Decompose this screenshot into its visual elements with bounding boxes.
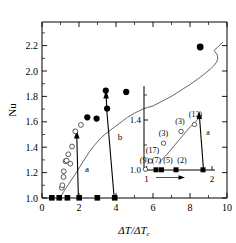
inset-open-circle-9: [143, 167, 147, 171]
filled-circle-marker: [94, 116, 100, 122]
branch-a-line: [77, 136, 79, 198]
inset-label-9: (9): [140, 156, 150, 165]
inset-label-3b: (3): [175, 117, 185, 126]
inset-y-ticklabel-1: 1.4: [130, 115, 142, 125]
inset-branch-a-line: [200, 117, 204, 170]
x-axis-tick-labels: 0 2 4 6 8 10: [40, 202, 233, 213]
open-circle-marker: [79, 123, 84, 128]
inset-filled-square-5: [159, 167, 164, 172]
y-ticklabel-6: 2.2: [26, 40, 39, 51]
inset-panel: 1.0 1.4 1 2 a: [130, 86, 215, 184]
inset-branch-a-label: a: [206, 128, 210, 137]
open-circle-marker: [60, 183, 65, 188]
open-circle-marker: [66, 152, 71, 157]
x-ticklabel-3: 6: [151, 202, 156, 213]
inset-label-2: (2): [177, 156, 187, 165]
y-ticklabel-5: 2.0: [26, 66, 39, 77]
inset-filled-square-end: [201, 167, 206, 172]
inset-direction-arrow: [156, 175, 185, 180]
filled-square-marker: [95, 195, 101, 201]
inset-label-12: (12): [189, 110, 203, 119]
inset-label-17: (17): [146, 146, 160, 155]
y-ticklabel-1: 1.2: [26, 167, 39, 178]
y-axis-label: Nu: [6, 103, 18, 117]
branch-b-line: [106, 97, 114, 199]
nusselt-number-figure: 1.0 1.2 1.4 1.6 1.8 2.0 2.2: [0, 0, 236, 243]
inset-label-5: (5): [163, 156, 173, 165]
inset-x-ticklabel-0: 1: [144, 174, 149, 184]
open-circle-marker: [70, 144, 75, 149]
filled-square-marker: [76, 195, 82, 201]
filled-square-marker: [65, 195, 71, 201]
filled-circle-marker: [197, 44, 204, 51]
inset-filled-square-7: [154, 167, 159, 172]
inset-label-3a: (3): [159, 129, 169, 138]
filled-circle-marker: [84, 114, 90, 120]
inset-label-7: (7): [152, 156, 162, 165]
filled-circle-marker: [104, 105, 110, 111]
open-circle-marker: [61, 169, 66, 174]
branch-a-label: a: [85, 164, 89, 174]
open-circle-marker: [61, 175, 66, 180]
y-axis-tick-labels: 1.0 1.2 1.4 1.6 1.8 2.0 2.2: [26, 40, 39, 203]
x-ticklabel-1: 2: [77, 202, 82, 213]
filled-square-marker: [56, 195, 62, 201]
filled-circle-marker: [103, 88, 109, 94]
y-ticklabel-0: 1.0: [26, 193, 39, 204]
filled-square-marker: [112, 195, 118, 201]
y-ticklabel-4: 1.8: [26, 91, 39, 102]
branch-b-label: b: [118, 132, 123, 142]
inset-open-circle-12: [192, 122, 196, 126]
x-ticklabel-4: 8: [188, 202, 193, 213]
y-ticklabel-2: 1.4: [26, 142, 39, 153]
inset-open-circle-3a: [161, 141, 165, 145]
filled-square-marker: [49, 195, 55, 201]
y-ticklabel-3: 1.6: [26, 116, 39, 127]
x-ticklabel-5: 10: [222, 202, 232, 213]
open-circle-marker: [68, 161, 73, 166]
x-ticklabel-0: 0: [40, 202, 45, 213]
inset-filled-square-2: [174, 167, 179, 172]
inset-y-ticklabel-0: 1.0: [130, 165, 142, 175]
open-circle-marker: [73, 129, 78, 134]
filled-circle-marker: [123, 89, 129, 95]
inset-open-circle-3b: [179, 129, 183, 133]
x-ticklabel-2: 4: [114, 202, 119, 213]
chart-canvas: 1.0 1.2 1.4 1.6 1.8 2.0 2.2: [0, 0, 236, 243]
x-axis-label-text: ΔT/ΔTc: [117, 224, 150, 238]
inset-x-ticklabel-1: 2: [210, 174, 215, 184]
x-axis-label: ΔT/ΔTc: [117, 224, 150, 238]
